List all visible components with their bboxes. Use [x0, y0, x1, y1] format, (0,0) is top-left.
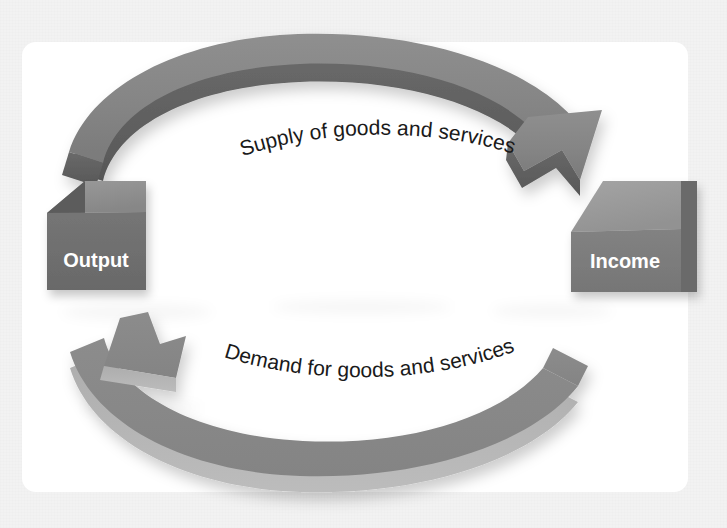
income-cube-top-face	[571, 181, 681, 232]
supply-flow-label: Supply of goods and services	[237, 116, 519, 160]
income-cube-side-face	[681, 181, 697, 292]
income-cube-label: Income	[590, 250, 660, 272]
demand-flow-label: Demand for goods and services	[222, 333, 516, 381]
circular-flow-diagram: Supply of goods and services Demand for …	[0, 0, 727, 528]
node-output-cube	[47, 181, 146, 290]
flow-arrow-supply	[62, 34, 602, 196]
node-income-cube	[571, 181, 697, 292]
output-cube-label: Output	[63, 249, 129, 271]
